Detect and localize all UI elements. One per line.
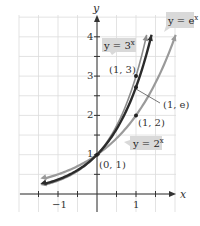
callout-ex-exp: x (194, 14, 198, 22)
point-label-1-e: (1, e) (163, 99, 190, 110)
svg-text:y = 3x: y = 3x (103, 39, 135, 51)
x-tick-label-1: 1 (133, 199, 139, 210)
data-point (134, 85, 138, 89)
y-axis-label: y (92, 2, 100, 15)
callout-2x: y = 2x (124, 136, 164, 150)
exponential-functions-chart: x y −1 1 1 2 3 4 (0, 1) (1, 2) (1, e) (1… (0, 0, 200, 226)
y-tick-label-4: 4 (87, 31, 93, 42)
callout-2x-base: y = 2 (132, 138, 160, 149)
curve-y-3-x (44, 35, 146, 185)
x-tick-label-neg1: −1 (52, 199, 67, 210)
callout-3x-exp: x (131, 39, 135, 47)
point-label-0-1: (0, 1) (99, 159, 126, 170)
curve-y-e-x (44, 35, 151, 184)
svg-text:y = ex: y = ex (167, 14, 198, 26)
callout-2x-exp: x (160, 137, 164, 145)
callout-ex: y = ex (164, 12, 198, 32)
svg-text:y = 2x: y = 2x (132, 137, 164, 149)
callout-3x-base: y = 3 (103, 40, 131, 51)
callout-3x: y = 3x (102, 38, 136, 55)
arrow-left-icon (40, 180, 47, 185)
point-label-1-3: (1, 3) (109, 64, 136, 75)
arrow-left-icon (40, 174, 47, 179)
y-tick-label-1: 1 (87, 148, 93, 159)
x-axis-label: x (180, 188, 187, 201)
point-label-1-2: (1, 2) (138, 117, 165, 128)
y-tick-label-3: 3 (87, 70, 93, 81)
arrow-up-icon (171, 35, 176, 42)
data-point (95, 153, 99, 157)
y-axis-arrow-icon (94, 15, 100, 22)
y-tick-label-2: 2 (87, 109, 93, 120)
callout-ex-base: y = e (167, 15, 194, 26)
